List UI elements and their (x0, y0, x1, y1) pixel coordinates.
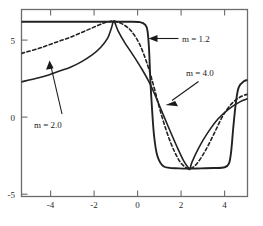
annotation-m-2-0-label: m = 2.0 (34, 120, 62, 130)
x-tick-label-4: 4 (222, 200, 227, 210)
chart-svg: -4 -2 0 2 4 5 0 -5 m = 1.2 m (0, 0, 263, 226)
x-tick-label-2: 0 (135, 200, 140, 210)
x-tick-label-1: -2 (90, 200, 98, 210)
y-tick-label-1: 0 (11, 113, 16, 123)
x-tick-label-3: 2 (179, 200, 184, 210)
chart-figure: -4 -2 0 2 4 5 0 -5 m = 1.2 m (0, 0, 263, 226)
annotation-m-1-2-label: m = 1.2 (182, 34, 210, 44)
y-tick-label-2: -5 (8, 190, 16, 200)
x-tick-label-0: -4 (47, 200, 55, 210)
y-tick-label-0: 5 (11, 36, 16, 46)
annotation-m-4-0-label: m = 4.0 (186, 68, 214, 78)
